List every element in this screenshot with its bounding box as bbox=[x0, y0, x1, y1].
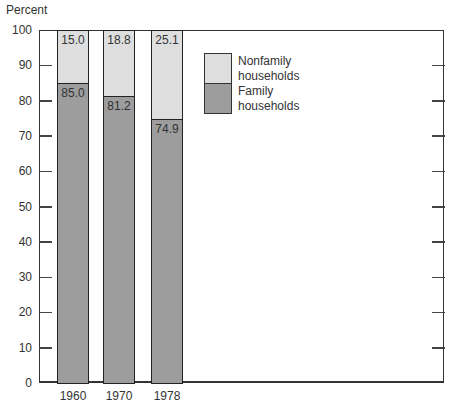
y-tick-right bbox=[432, 171, 445, 173]
y-tick-label: 50 bbox=[4, 200, 32, 214]
value-label: 18.8 bbox=[104, 33, 134, 47]
bar-family-1978: 74.9 bbox=[151, 119, 183, 384]
bar-family-1970: 81.2 bbox=[103, 96, 135, 384]
y-tick-label: 60 bbox=[4, 164, 32, 178]
x-tick-label: 1970 bbox=[99, 389, 139, 403]
legend-label-line: households bbox=[238, 69, 299, 84]
y-tick-right bbox=[432, 347, 445, 349]
bar-nonfamily-1960: 15.0 bbox=[57, 30, 89, 84]
y-tick-left bbox=[39, 135, 52, 137]
value-label: 15.0 bbox=[58, 33, 88, 47]
legend-swatch-nonfamily bbox=[204, 53, 232, 85]
y-tick-label: 80 bbox=[4, 94, 32, 108]
y-tick-label: 30 bbox=[4, 270, 32, 284]
legend-label-line: Nonfamily bbox=[238, 54, 299, 69]
x-tick-label: 1960 bbox=[53, 389, 93, 403]
y-tick-label: 20 bbox=[4, 305, 32, 319]
y-tick-label: 70 bbox=[4, 129, 32, 143]
value-label: 81.2 bbox=[104, 99, 134, 113]
y-tick-right bbox=[432, 135, 445, 137]
y-tick-label: 0 bbox=[4, 376, 32, 390]
bar-nonfamily-1970: 18.8 bbox=[103, 30, 135, 97]
y-tick-left bbox=[39, 347, 52, 349]
y-axis-title: Percent bbox=[6, 3, 47, 17]
y-tick-right bbox=[432, 65, 445, 67]
y-tick-left bbox=[39, 241, 52, 243]
y-tick-label: 40 bbox=[4, 235, 32, 249]
y-tick-left bbox=[39, 65, 52, 67]
x-tick-label: 1978 bbox=[147, 389, 187, 403]
y-tick-right bbox=[432, 312, 445, 314]
y-tick-left bbox=[39, 206, 52, 208]
legend-label-nonfamily: Nonfamily households bbox=[238, 54, 299, 84]
y-tick-label: 90 bbox=[4, 58, 32, 72]
value-label: 25.1 bbox=[152, 33, 182, 47]
bar-family-1960: 85.0 bbox=[57, 83, 89, 384]
legend-swatch-family bbox=[204, 83, 232, 114]
y-tick-right bbox=[432, 100, 445, 102]
bar-nonfamily-1978: 25.1 bbox=[151, 30, 183, 120]
y-tick-right bbox=[432, 206, 445, 208]
value-label: 74.9 bbox=[152, 122, 182, 136]
y-tick-right bbox=[432, 277, 445, 279]
legend-label-line: households bbox=[238, 99, 299, 114]
y-tick-left bbox=[39, 312, 52, 314]
legend-label-line: Family bbox=[238, 84, 299, 99]
y-tick-left bbox=[39, 277, 52, 279]
value-label: 85.0 bbox=[58, 86, 88, 100]
y-tick-label: 10 bbox=[4, 341, 32, 355]
legend-label-family: Family households bbox=[238, 84, 299, 114]
y-tick-left bbox=[39, 100, 52, 102]
y-tick-right bbox=[432, 241, 445, 243]
y-tick-label: 100 bbox=[4, 23, 32, 37]
y-tick-left bbox=[39, 171, 52, 173]
